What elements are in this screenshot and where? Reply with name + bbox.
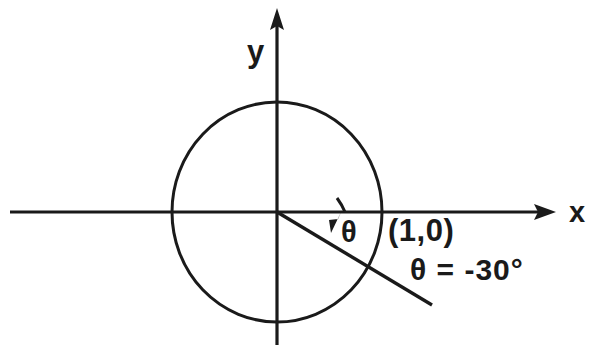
x-axis-label: x: [569, 198, 585, 227]
theta-equation-label: θ = -30°: [410, 255, 524, 285]
unit-point-label: (1,0): [388, 215, 454, 246]
angle-arc: [337, 198, 345, 212]
theta-symbol-label: θ: [341, 218, 357, 247]
y-axis-label: y: [247, 36, 264, 67]
figure-canvas: [0, 0, 598, 345]
unit-circle-figure: y x θ (1,0) θ = -30°: [0, 0, 598, 345]
